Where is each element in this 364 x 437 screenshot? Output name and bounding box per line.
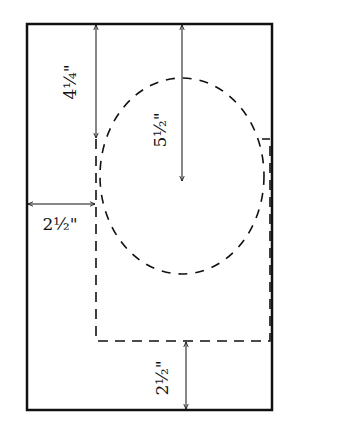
bottom-margin-label: 2½" xyxy=(152,360,172,395)
oval-height-label: 5½" xyxy=(150,112,170,147)
layout-diagram: 4¼" 5½" 2½" 2½" xyxy=(0,0,364,437)
left-margin-label: 2½" xyxy=(42,214,77,234)
top-margin-label: 4¼" xyxy=(60,64,80,99)
